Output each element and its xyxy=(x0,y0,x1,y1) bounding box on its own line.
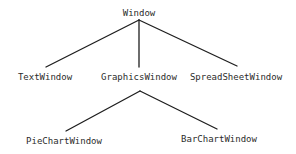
node-text-window: TextWindow xyxy=(18,72,72,82)
edge-graphicswindow-piechartwindow xyxy=(66,91,140,131)
node-piechart-window: PieChartWindow xyxy=(26,136,102,146)
node-spreadsheet-window: SpreadSheetWindow xyxy=(190,72,282,82)
edge-graphicswindow-barchartwindow xyxy=(140,91,217,129)
node-window: Window xyxy=(123,8,156,18)
edge-window-textwindow xyxy=(46,20,139,67)
edge-window-spreadsheetwindow xyxy=(139,20,237,66)
node-graphics-window: GraphicsWindow xyxy=(101,72,177,82)
hierarchy-diagram: Window TextWindow GraphicsWindow SpreadS… xyxy=(0,0,296,154)
node-barchart-window: BarChartWindow xyxy=(181,134,257,144)
